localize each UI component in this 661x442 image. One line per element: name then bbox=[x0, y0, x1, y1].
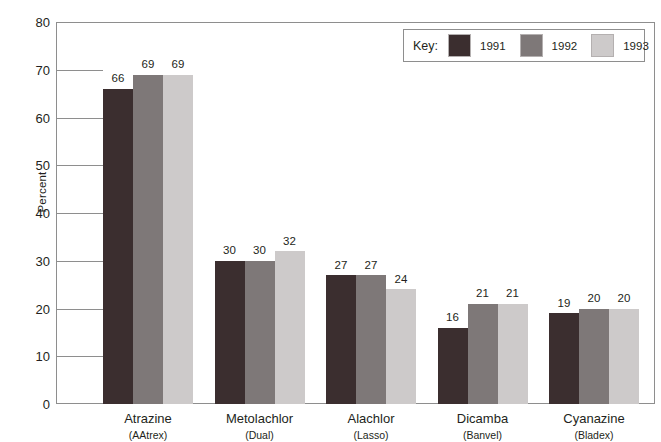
bar-group-dicamba: 162121 bbox=[438, 22, 528, 404]
bar-dicamba-1993 bbox=[498, 304, 528, 404]
bar-value-alachlor-1992: 27 bbox=[354, 260, 388, 272]
y-tick-mark-20 bbox=[57, 309, 103, 310]
bar-value-atrazine-1992: 69 bbox=[131, 59, 165, 71]
bar-cyanazine-1991 bbox=[549, 313, 579, 404]
category-name: Cyanazine bbox=[514, 410, 661, 428]
bar-value-cyanazine-1993: 20 bbox=[607, 293, 641, 305]
bar-alachlor-1993 bbox=[386, 289, 416, 404]
y-tick-label-80: 80 bbox=[10, 16, 50, 29]
bar-value-dicamba-1991: 16 bbox=[436, 312, 470, 324]
bar-dicamba-1992 bbox=[468, 304, 498, 404]
bar-value-cyanazine-1991: 19 bbox=[547, 298, 581, 310]
legend-label-1992: 1992 bbox=[552, 40, 578, 52]
bar-value-atrazine-1993: 69 bbox=[161, 59, 195, 71]
bar-metolachlor-1991 bbox=[215, 261, 245, 404]
bar-atrazine-1991 bbox=[103, 89, 133, 404]
legend-entry-1991: 1991 bbox=[448, 34, 506, 57]
bar-value-metolachlor-1992: 30 bbox=[243, 245, 277, 257]
y-tick-mark-10 bbox=[57, 356, 103, 357]
bar-value-atrazine-1991: 66 bbox=[101, 73, 135, 85]
legend-label-1991: 1991 bbox=[480, 40, 506, 52]
bar-value-cyanazine-1992: 20 bbox=[577, 293, 611, 305]
bar-value-dicamba-1992: 21 bbox=[466, 288, 500, 300]
y-tick-label-30: 30 bbox=[10, 255, 50, 268]
y-tick-mark-40 bbox=[57, 213, 103, 214]
y-tick-label-60: 60 bbox=[10, 112, 50, 125]
y-tick-label-10: 10 bbox=[10, 350, 50, 363]
bar-metolachlor-1992 bbox=[245, 261, 275, 404]
y-tick-label-20: 20 bbox=[10, 303, 50, 316]
legend-label-1993: 1993 bbox=[623, 40, 649, 52]
x-category-label-cyanazine: Cyanazine(Bladex) bbox=[514, 410, 661, 442]
bar-value-alachlor-1993: 24 bbox=[384, 274, 418, 286]
y-tick-label-50: 50 bbox=[10, 159, 50, 172]
legend-swatch-1993 bbox=[591, 34, 614, 57]
bar-group-metolachlor: 303032 bbox=[215, 22, 305, 404]
bar-cyanazine-1992 bbox=[579, 309, 609, 405]
bar-value-dicamba-1993: 21 bbox=[496, 288, 530, 300]
bar-dicamba-1991 bbox=[438, 328, 468, 404]
bar-alachlor-1991 bbox=[326, 275, 356, 404]
legend-entry-1993: 1993 bbox=[591, 34, 649, 57]
legend-entry-1992: 1992 bbox=[520, 34, 578, 57]
bar-group-cyanazine: 192020 bbox=[549, 22, 639, 404]
y-tick-mark-60 bbox=[57, 118, 103, 119]
bar-value-metolachlor-1991: 30 bbox=[213, 245, 247, 257]
bar-alachlor-1992 bbox=[356, 275, 386, 404]
legend-swatch-1992 bbox=[520, 34, 543, 57]
legend-entries: 199119921993 bbox=[448, 34, 661, 57]
bar-group-alachlor: 272724 bbox=[326, 22, 416, 404]
y-tick-label-40: 40 bbox=[10, 207, 50, 220]
y-tick-mark-70 bbox=[57, 70, 103, 71]
y-tick-label-0: 0 bbox=[10, 398, 50, 411]
bar-group-atrazine: 666969 bbox=[103, 22, 193, 404]
bar-value-metolachlor-1993: 32 bbox=[273, 236, 307, 248]
legend-title: Key: bbox=[413, 39, 438, 53]
y-axis-tick-labels: 80706050403020100 bbox=[0, 0, 50, 439]
y-tick-mark-30 bbox=[57, 261, 103, 262]
category-alt-name: (Bladex) bbox=[514, 428, 661, 442]
bar-cyanazine-1993 bbox=[609, 309, 639, 405]
legend-swatch-1991 bbox=[448, 34, 471, 57]
y-tick-label-70: 70 bbox=[10, 64, 50, 77]
y-tick-mark-50 bbox=[57, 165, 103, 166]
bar-atrazine-1992 bbox=[133, 75, 163, 404]
chart-legend: Key: 199119921993 bbox=[403, 29, 645, 62]
bar-metolachlor-1993 bbox=[275, 251, 305, 404]
bar-atrazine-1993 bbox=[163, 75, 193, 404]
bar-value-alachlor-1991: 27 bbox=[324, 260, 358, 272]
